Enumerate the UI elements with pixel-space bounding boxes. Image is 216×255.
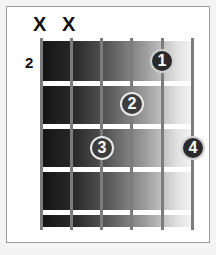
finger-1-marker: 1: [150, 49, 174, 73]
string-4: [100, 38, 103, 230]
string-3: [130, 38, 133, 230]
fret-line-4: [41, 210, 193, 215]
fret-line-3: [41, 167, 193, 172]
string-5: [70, 38, 73, 230]
fret-line-2: [41, 124, 193, 129]
string-1: [191, 38, 194, 230]
muted-string-6-marker: X: [33, 14, 46, 34]
fret-line-1: [41, 81, 193, 86]
start-fret-label: 2: [25, 54, 33, 71]
finger-4-marker: 4: [181, 136, 205, 160]
finger-2-marker: 2: [120, 92, 144, 116]
muted-string-5-marker: X: [62, 14, 75, 34]
string-6: [40, 38, 43, 230]
finger-3-marker: 3: [90, 136, 114, 160]
